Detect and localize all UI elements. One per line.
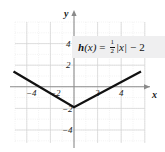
x-tick-label-neg2: −2	[50, 89, 61, 98]
x-tick-label-2: 2	[95, 89, 100, 98]
equation-constant: 2	[139, 41, 145, 53]
equation-argument: (x)	[84, 41, 96, 53]
x-axis-name: x	[152, 90, 157, 100]
fraction-numerator: 1	[110, 39, 116, 46]
y-tick-label-neg2: −2	[62, 105, 73, 114]
equation-annotation: h(x) = 1 2 |x| − 2	[72, 36, 165, 58]
y-tick-label-2: 2	[66, 61, 71, 70]
equation-absolute-value: |x|	[116, 41, 127, 53]
y-tick-label-neg4: −4	[62, 126, 73, 135]
equation-coefficient-fraction: 1 2	[110, 39, 116, 55]
equation-equals: =	[99, 41, 105, 53]
coordinate-plane	[0, 0, 165, 152]
y-axis-name: y	[64, 9, 68, 19]
fraction-denominator: 2	[110, 47, 116, 55]
y-tick-label-4: 4	[66, 40, 71, 49]
x-tick-label-4: 4	[119, 89, 124, 98]
figure-container: −4 −2 2 4 4 2 −2 −4 y x h(x) = 1 2 |x| −…	[0, 0, 165, 152]
equation-expression: h(x) = 1 2 |x| − 2	[78, 39, 145, 55]
x-tick-label-neg4: −4	[26, 89, 37, 98]
equation-operator: −	[130, 41, 136, 53]
